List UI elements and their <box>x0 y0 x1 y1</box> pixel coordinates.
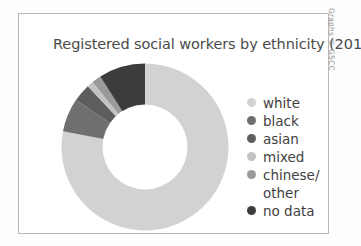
legend-item-label: asian <box>263 130 299 148</box>
donut-center-hole <box>103 105 188 190</box>
legend-item[interactable]: no data <box>247 202 345 220</box>
legend-item-label: mixed <box>263 148 304 166</box>
chart-panel: Registered social workers by ethnicity (… <box>18 13 329 234</box>
page-title: Registered social workers by ethnicity (… <box>53 36 343 52</box>
legend-item[interactable]: mixed <box>247 148 345 166</box>
legend-swatch-icon <box>247 116 256 125</box>
donut-chart <box>61 63 229 231</box>
legend-item-label: no data <box>263 202 315 220</box>
legend-swatch-icon <box>247 134 256 143</box>
legend-item[interactable]: black <box>247 112 345 130</box>
legend-item-label: white <box>263 94 300 112</box>
legend-swatch-icon <box>247 152 256 161</box>
donut-chart-svg <box>61 63 229 231</box>
legend-item-label-continued: other <box>263 184 345 202</box>
legend-item[interactable]: white <box>247 94 345 112</box>
legend-item-label: chinese/ <box>263 166 319 184</box>
legend-item[interactable]: chinese/ <box>247 166 345 184</box>
chart-legend: whiteblackasianmixedchinese/otherno data <box>247 94 345 220</box>
legend-item[interactable]: asian <box>247 130 345 148</box>
legend-swatch-icon <box>247 206 256 215</box>
legend-swatch-icon <box>247 170 256 179</box>
figure-canvas: Registered social workers by ethnicity (… <box>0 0 361 246</box>
credit-text: Graphs © GSCC <box>327 8 336 71</box>
legend-item-label: black <box>263 112 299 130</box>
legend-swatch-icon <box>247 98 256 107</box>
